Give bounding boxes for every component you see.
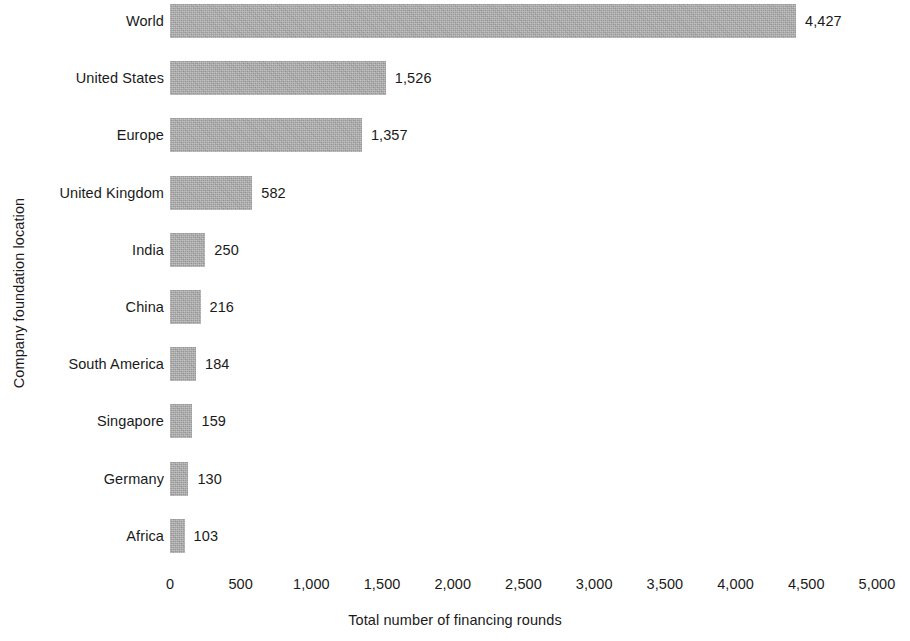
plot-area: World4,427United States1,526Europe1,357U…	[0, 0, 910, 575]
x-axis-tick-label: 3,000	[576, 576, 613, 592]
bar-row: Europe1,357	[0, 117, 910, 153]
bar-value-label: 103	[194, 518, 219, 554]
category-label: World	[126, 3, 164, 39]
x-axis-tick-label: 2,500	[505, 576, 542, 592]
x-axis-tick-label: 2,000	[434, 576, 471, 592]
category-label: United States	[76, 60, 164, 96]
x-axis-tick-label: 0	[166, 576, 174, 592]
bar	[170, 404, 192, 438]
bar-chart: Company foundation location World4,427Un…	[0, 0, 910, 641]
bar	[170, 519, 185, 553]
x-axis-title: Total number of financing rounds	[0, 612, 910, 628]
category-label: China	[126, 289, 164, 325]
bar-value-label: 250	[214, 232, 239, 268]
bar-value-label: 1,357	[371, 117, 408, 153]
x-axis-tick-label: 4,000	[717, 576, 754, 592]
x-axis-tick-label: 1,500	[364, 576, 401, 592]
bar-row: Germany130	[0, 461, 910, 497]
bar-value-label: 582	[261, 175, 286, 211]
bar	[170, 61, 386, 95]
bar	[170, 290, 201, 324]
bar-row: United Kingdom582	[0, 175, 910, 211]
category-label: South America	[68, 346, 164, 382]
x-axis-tick-label: 4,500	[788, 576, 825, 592]
bar-value-label: 216	[210, 289, 235, 325]
bar-value-label: 130	[197, 461, 222, 497]
bar-value-label: 4,427	[805, 3, 842, 39]
category-label: Africa	[126, 518, 164, 554]
bar	[170, 118, 362, 152]
x-axis-tick-label: 3,500	[646, 576, 683, 592]
category-label: Germany	[104, 461, 164, 497]
bar-value-label: 184	[205, 346, 230, 382]
x-axis-tick-label: 500	[228, 576, 253, 592]
category-label: United Kingdom	[59, 175, 164, 211]
bar-row: Africa103	[0, 518, 910, 554]
bar	[170, 176, 252, 210]
bar	[170, 462, 188, 496]
x-axis-tick-label: 1,000	[293, 576, 330, 592]
bar	[170, 233, 205, 267]
bar	[170, 347, 196, 381]
bar-row: South America184	[0, 346, 910, 382]
bar-row: China216	[0, 289, 910, 325]
category-label: India	[132, 232, 164, 268]
bar-row: World4,427	[0, 3, 910, 39]
bar-value-label: 1,526	[395, 60, 432, 96]
x-axis-tick-labels: 05001,0001,5002,0002,5003,0003,5004,0004…	[0, 576, 910, 598]
x-axis-tick-label: 5,000	[859, 576, 896, 592]
bar-value-label: 159	[201, 403, 226, 439]
bar-row: India250	[0, 232, 910, 268]
category-label: Singapore	[97, 403, 164, 439]
bar-row: Singapore159	[0, 403, 910, 439]
bar	[170, 4, 796, 38]
bar-row: United States1,526	[0, 60, 910, 96]
category-label: Europe	[117, 117, 164, 153]
